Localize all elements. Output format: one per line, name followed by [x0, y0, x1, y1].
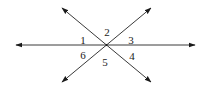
angle-label-1: 1 [80, 34, 86, 46]
intersection-point [106, 44, 108, 46]
angle-label-2: 2 [104, 26, 110, 38]
angle-label-4: 4 [129, 50, 135, 62]
angle-label-6: 6 [80, 49, 86, 61]
intersecting-lines-diagram: 1 2 3 4 5 6 [0, 0, 206, 90]
angle-label-3: 3 [128, 34, 134, 46]
angle-label-5: 5 [102, 56, 108, 68]
